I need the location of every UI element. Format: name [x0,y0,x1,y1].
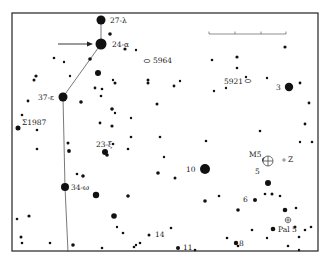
star-icon [127,148,130,151]
star-icon [53,57,56,60]
star-icon [203,199,207,203]
star-icon [298,249,300,251]
star-icon [61,183,69,191]
star-icon [21,114,24,117]
star-icon [147,82,150,85]
star-icon [236,208,240,212]
star-icon [304,123,307,126]
star-icon [81,174,85,178]
star-icon [94,87,97,90]
star-icon [27,214,30,217]
star-icon [308,102,311,105]
star-icon [139,242,142,245]
star-icon [264,193,267,196]
star-icon [205,140,208,143]
star-icon [283,208,288,213]
star-icon [271,227,276,232]
star-icon [225,87,227,89]
star-icon [156,171,160,175]
label-z: Z [288,155,293,164]
star-icon [200,164,210,174]
label-star-6: 6 [243,195,248,204]
star-icon [251,229,254,232]
star-icon [79,100,83,104]
star-icon [69,75,71,77]
label-m5: M5 [249,150,262,159]
star-icon [279,195,282,198]
star-icon [67,142,70,145]
star-icon [245,76,247,78]
star-icon [100,95,103,98]
globular-cluster-pal5-icon [285,217,291,223]
star-icon [135,49,137,51]
star-icon [173,85,176,88]
star-icon [179,80,181,82]
label-star-11: 11 [183,243,193,252]
star-icon [126,194,130,198]
star-icon [96,39,107,50]
star-icon [36,129,39,132]
star-icon [21,242,24,245]
star-icon [20,236,23,239]
star-icon [97,16,106,25]
star-icon [71,243,75,247]
star-icon [311,141,314,144]
star-icon [235,55,238,58]
star-icon [283,45,286,48]
star-icon [218,195,221,198]
label-star-14: 14 [155,230,165,239]
star-icon [299,141,301,143]
label-star-10: 10 [186,165,196,174]
star-icon [76,173,79,176]
star-icon [108,32,112,36]
label-star-5: 5 [255,167,260,176]
star-icon [211,59,214,62]
label-ngc5964: 5964 [153,56,172,65]
label-star-3: 3 [276,83,281,92]
star-icon [130,136,133,139]
star-icon [63,61,65,63]
star-icon [101,247,104,250]
star-icon [287,245,290,248]
star-icon [111,213,117,219]
star-icon [67,149,71,153]
star-icon [266,77,268,79]
star-icon [110,124,113,127]
star-icon [298,236,301,239]
star-icon [310,226,313,229]
star-icon [135,244,137,246]
label-pal-5: Pal 5 [278,225,297,234]
star-icon [156,103,159,106]
star-icon [259,130,262,133]
label-23-xi: 23-ξ [96,140,112,149]
star-icon [36,148,39,151]
label-37-epsilon: 37-ε [38,93,54,102]
star-icon [295,207,298,210]
label-27-lambda: 27-λ [110,16,127,25]
star-icon [147,79,150,82]
star-icon [110,107,114,111]
star-icon [114,112,116,114]
star-icon [114,82,117,85]
star-icon [271,193,274,196]
star-chart: 27-λ 24-α 5964 5921 3 37-ε Σ1987 23-ξ 34… [0,0,328,260]
star-icon [59,93,68,102]
star-icon [253,198,257,202]
star-icon [299,82,302,85]
star-icon [99,122,102,125]
star-icon [163,156,165,158]
star-icon [159,136,162,139]
star-icon [16,218,19,221]
star-icon [133,246,136,249]
star-icon [130,117,132,119]
star-icon [49,242,52,245]
star-icon [194,249,197,252]
star-icon [236,67,239,70]
star-icon [266,237,268,239]
chart-frame [12,13,318,251]
globular-cluster-m5-icon [263,156,273,166]
star-icon [170,227,173,230]
label-sigma-1987: Σ1987 [22,118,47,127]
star-icon [16,126,21,131]
star-icon [112,79,114,81]
